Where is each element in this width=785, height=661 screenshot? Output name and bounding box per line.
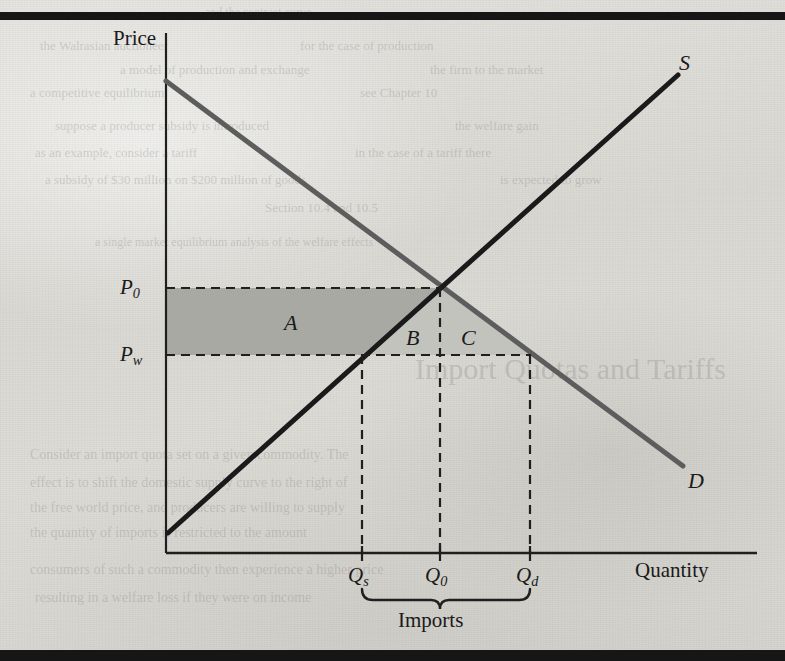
p0-base: P: [120, 275, 133, 299]
quantity-tick-label-qs: Qs: [348, 563, 369, 590]
imports-brace-label: Imports: [398, 608, 463, 633]
quantity-tick-label-qd: Qd: [516, 563, 538, 590]
q0-base: Q: [425, 563, 440, 587]
supply-curve-label: S: [679, 50, 690, 76]
qd-subscript: d: [531, 573, 538, 589]
y-axis-label: Price: [113, 26, 156, 51]
quantity-tick-label-q0: Q0: [425, 563, 447, 590]
figure-page: and the contract curvethe Walrasian auct…: [0, 0, 785, 661]
price-tick-label-pw: Pw: [120, 342, 142, 369]
qs-subscript: s: [363, 573, 369, 589]
q0-subscript: 0: [440, 573, 447, 589]
region-a-label: A: [284, 310, 297, 336]
pw-subscript: w: [133, 352, 143, 368]
p0-subscript: 0: [133, 285, 140, 301]
pw-base: P: [120, 342, 133, 366]
region-c-label: C: [461, 325, 476, 351]
price-tick-label-p0: P0: [120, 275, 140, 302]
qd-base: Q: [516, 563, 531, 587]
qs-base: Q: [348, 563, 363, 587]
imports-brace: [362, 589, 530, 609]
demand-curve-label: D: [688, 468, 704, 494]
region-b-label: B: [406, 325, 419, 351]
x-axis-label: Quantity: [635, 558, 709, 583]
